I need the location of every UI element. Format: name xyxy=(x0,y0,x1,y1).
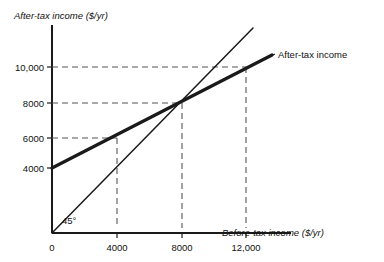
angle-annotation-45deg: 45° xyxy=(62,216,76,226)
x-tick-label-8000: 8000 xyxy=(162,243,202,253)
y-tick-label-4000: 4000 xyxy=(0,164,44,174)
x-tick-label-4000: 4000 xyxy=(97,243,137,253)
series-label-after-tax-income: After-tax income xyxy=(278,50,347,60)
series-after-tax-income-line xyxy=(52,55,272,168)
y-axis-title: After-tax income ($/yr) xyxy=(14,11,108,21)
series-callout-leader xyxy=(259,54,275,62)
series-45-degree-line xyxy=(52,28,253,233)
x-tick-label-0: 0 xyxy=(32,243,72,253)
y-tick-label-6000: 6000 xyxy=(0,134,44,144)
y-tick-label-8000: 8000 xyxy=(0,99,44,109)
y-tick-label-10000: 10,000 xyxy=(0,63,44,73)
chart-canvas xyxy=(0,0,384,262)
x-tick-label-12000: 12,000 xyxy=(224,243,268,253)
x-axis-title: Before-tax income ($/yr) xyxy=(222,228,324,238)
chart-figure: After-tax income ($/yr) Before-tax incom… xyxy=(0,0,384,262)
